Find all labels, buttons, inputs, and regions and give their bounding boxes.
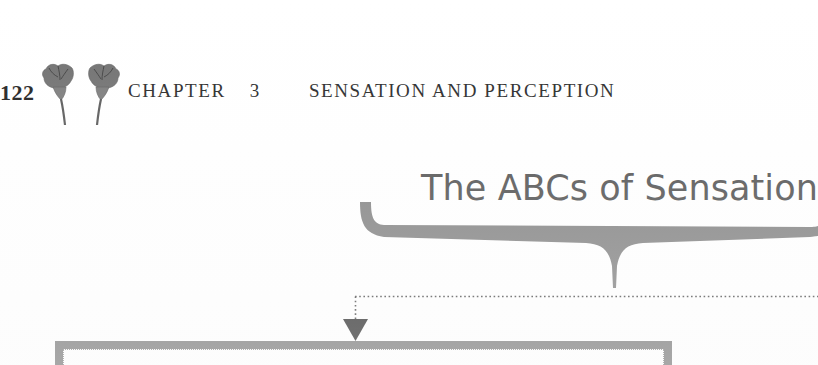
down-triangle-arrow-icon	[343, 319, 368, 341]
content-box	[55, 341, 672, 365]
running-head: 122	[0, 70, 818, 116]
horizontal-curly-brace-icon	[350, 200, 818, 295]
chapter-label: CHAPTER	[128, 80, 226, 101]
page-number: 122	[0, 80, 35, 106]
chapter-number: 3	[250, 80, 261, 101]
content-box-inner-border	[63, 349, 664, 365]
textbook-page: 122	[0, 0, 818, 365]
chapter-running-head: CHAPTER3SENSATION AND PERCEPTION	[128, 80, 615, 102]
chapter-title: SENSATION AND PERCEPTION	[309, 80, 616, 101]
twin-flower-ornament-icon	[38, 56, 124, 128]
dotted-elbow-connector-icon	[330, 288, 818, 344]
